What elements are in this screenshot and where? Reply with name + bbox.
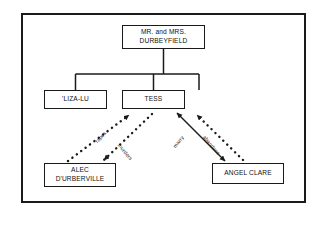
- node-liza-lu-label: 'LIZA-LU: [62, 95, 89, 104]
- relationship-diagram: MR. and MRS. DURBEYFIELD 'LIZA-LU TESS A…: [0, 0, 327, 233]
- node-angel-clare: ANGEL CLARE: [212, 163, 284, 184]
- node-durbeyfield-parents: MR. and MRS. DURBEYFIELD: [122, 25, 205, 49]
- node-alec-durberville-label: ALEC D'URBERVILLE: [56, 166, 105, 183]
- family-tree-connector: [76, 49, 200, 90]
- node-angel-clare-label: ANGEL CLARE: [224, 169, 272, 178]
- node-alec-durberville: ALEC D'URBERVILLE: [44, 163, 116, 187]
- node-liza-lu: 'LIZA-LU: [44, 90, 107, 109]
- node-tess-label: TESS: [145, 95, 163, 104]
- node-durbeyfield-parents-label: MR. and MRS. DURBEYFIELD: [140, 28, 188, 45]
- node-tess: TESS: [122, 90, 185, 109]
